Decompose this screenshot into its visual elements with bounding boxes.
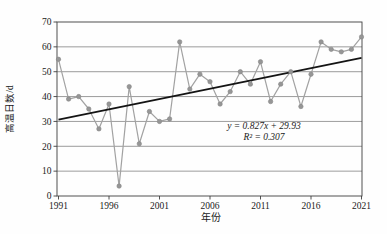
data-point (87, 107, 91, 111)
data-point (218, 102, 222, 106)
plot-area: 0102030405060701991199620012006201120162… (42, 17, 371, 211)
data-point (117, 184, 121, 188)
y-axis-title: 高温日数/d (4, 85, 15, 133)
data-point (208, 79, 212, 83)
data-point (359, 35, 363, 39)
x-tick-label: 1991 (49, 201, 68, 211)
data-point (107, 102, 111, 106)
x-tick-label: 2006 (201, 201, 220, 211)
trend-line (59, 58, 362, 120)
y-tick-label: 40 (42, 92, 52, 102)
data-point (329, 47, 333, 51)
data-point (127, 84, 131, 88)
data-point (178, 40, 182, 44)
data-point (289, 70, 293, 74)
data-point (56, 57, 60, 61)
data-point (97, 127, 101, 131)
data-point (258, 60, 262, 64)
data-point (299, 104, 303, 108)
x-tick-label: 2001 (150, 201, 169, 211)
y-tick-label: 10 (42, 166, 52, 176)
data-point (339, 50, 343, 54)
data-point (198, 72, 202, 76)
chart-canvas: 0102030405060701991199620012006201120162… (0, 0, 387, 234)
data-point (157, 119, 161, 123)
plot-frame (57, 22, 362, 196)
trendline-r2-label: R² = 0.307 (242, 132, 285, 142)
data-point (248, 82, 252, 86)
x-tick-label: 2016 (302, 201, 321, 211)
x-tick-label: 2011 (251, 201, 270, 211)
data-point (77, 94, 81, 98)
y-tick-label: 0 (47, 191, 52, 201)
data-point (349, 47, 353, 51)
data-point (238, 70, 242, 74)
x-tick-label: 1996 (100, 201, 119, 211)
high-temp-days-chart: 0102030405060701991199620012006201120162… (0, 0, 387, 234)
data-point (309, 72, 313, 76)
data-point (279, 82, 283, 86)
x-axis-title: 年份 (201, 211, 221, 223)
y-tick-label: 20 (42, 142, 52, 152)
data-point (268, 99, 272, 103)
trendline-equation-label: y = 0.827x + 29.93 (226, 121, 301, 131)
data-point (147, 109, 151, 113)
y-tick-label: 30 (42, 117, 52, 127)
y-tick-label: 60 (42, 42, 52, 52)
data-point (66, 97, 70, 101)
x-tick-label: 2021 (352, 201, 371, 211)
data-point (137, 142, 141, 146)
data-point (167, 117, 171, 121)
y-tick-label: 50 (42, 67, 52, 77)
y-tick-label: 70 (42, 17, 52, 27)
data-point (188, 87, 192, 91)
data-point (319, 40, 323, 44)
data-point (228, 89, 232, 93)
series-line (59, 37, 362, 186)
